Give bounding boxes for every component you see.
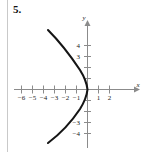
x-tick-label--5: −5 <box>29 94 37 102</box>
figure-page: 5. <box>0 0 144 152</box>
coordinate-plane-svg: −6 −5 −4 −3 −2 −1 1 2 4 3 −3 −4 x y <box>0 0 144 152</box>
y-axis-label: y <box>81 14 86 22</box>
x-tick-label--2: −2 <box>62 94 70 102</box>
parabola-curve <box>48 30 88 143</box>
x-tick-label--4: −4 <box>40 94 48 102</box>
graph-figure: −6 −5 −4 −3 −2 −1 1 2 4 3 −3 −4 x y <box>0 0 144 152</box>
y-tick-label-3: 3 <box>77 53 81 61</box>
x-tick-label--1: −1 <box>73 94 81 102</box>
x-tick-label--3: −3 <box>51 94 59 102</box>
y-tick-label--4: −4 <box>73 130 81 138</box>
y-tick-label--3: −3 <box>73 119 81 127</box>
x-axis-label: x <box>135 81 140 89</box>
y-tick-label-4: 4 <box>77 42 81 50</box>
x-tick-label-2: 2 <box>108 94 112 102</box>
x-tick-label--6: −6 <box>18 94 26 102</box>
x-tick-label-1: 1 <box>97 94 101 102</box>
